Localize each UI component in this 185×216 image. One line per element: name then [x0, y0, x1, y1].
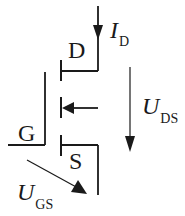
mosfet-diagram: D G S ID UDS UGS: [0, 0, 185, 216]
ugs-symbol: U: [17, 179, 34, 205]
uds-arrowhead-icon: [125, 136, 135, 152]
drain-current-symbol: I: [110, 17, 118, 43]
source-label: S: [69, 149, 82, 173]
ugs-subscript: GS: [35, 197, 53, 212]
gate-label: G: [18, 121, 35, 145]
uds-symbol: U: [142, 93, 159, 119]
ugs-arrowhead-icon: [71, 180, 87, 194]
uds-subscript: DS: [160, 111, 178, 126]
drain-current-label: ID: [110, 18, 128, 42]
drain-label: D: [68, 38, 85, 62]
drain-current-subscript: D: [119, 34, 129, 49]
drain-current-arrowhead-icon: [93, 25, 103, 40]
body-arrowhead-icon: [62, 102, 74, 114]
gate-source-voltage-label: UGS: [17, 180, 52, 204]
drain-source-voltage-label: UDS: [142, 94, 177, 118]
